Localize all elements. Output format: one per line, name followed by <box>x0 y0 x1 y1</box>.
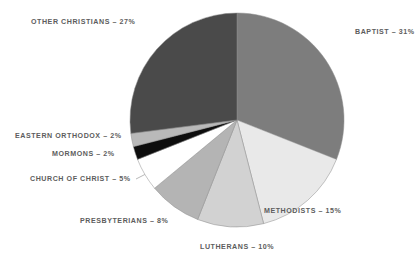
pie-slice-group <box>130 13 344 227</box>
pie-label-eastern-orthodox: Eastern Orthodox – 2% <box>15 133 122 140</box>
pie-label-lutherans: Lutherans – 10% <box>200 244 274 251</box>
pie-label-presbyterians: Presbyterians – 8% <box>80 218 168 225</box>
leader-line-church-of-christ <box>136 174 145 179</box>
pie-label-other-christians: Other Christians – 27% <box>31 19 135 26</box>
pie-label-baptist: Baptist – 31% <box>355 29 415 36</box>
pie-label-methodists: Methodists – 15% <box>264 208 341 215</box>
pie-slice-other-christians[interactable] <box>130 13 237 133</box>
pie-label-church-of-christ: Church of Christ – 5% <box>30 176 131 183</box>
pie-label-mormons: Mormons – 2% <box>52 151 115 158</box>
pie-leader-line-group <box>136 174 145 179</box>
